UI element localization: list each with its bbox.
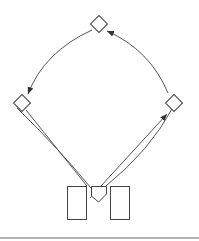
left-diamond-node[interactable] (14, 95, 31, 112)
edge-left-to-center-curved (17, 108, 91, 188)
edge-center-to-right-curved (106, 109, 172, 186)
top-diamond-node[interactable] (91, 16, 108, 33)
edge-top-to-left (28, 30, 92, 94)
diagram-svg (0, 0, 199, 241)
center-pentagon-node[interactable] (92, 187, 107, 203)
edge-center-to-right-straight (90, 114, 167, 198)
left-rect-node[interactable] (68, 187, 87, 220)
right-rect-node[interactable] (111, 187, 130, 220)
diagram-canvas (0, 0, 199, 241)
edge-right-to-top (107, 31, 168, 93)
right-diamond-node[interactable] (166, 95, 183, 112)
